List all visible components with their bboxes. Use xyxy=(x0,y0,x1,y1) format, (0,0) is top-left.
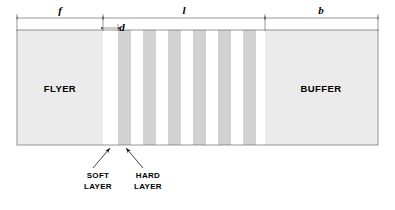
hard-layer-stripe xyxy=(168,30,181,145)
hard-layer-stripe xyxy=(218,30,231,145)
cross-section-diagram: FLYER BUFFER f d l b SOFT LAYER xyxy=(0,0,395,210)
hard-layer-stripe xyxy=(193,30,206,145)
callout-hard-layer: HARD LAYER xyxy=(126,148,162,191)
buffer-label: BUFFER xyxy=(301,83,342,94)
hard-layer-label-line-1: HARD xyxy=(136,171,160,180)
hard-layer-stripe xyxy=(143,30,156,145)
flyer-label: FLYER xyxy=(44,83,76,94)
hard-layer-leader-line xyxy=(126,148,143,168)
hard-layer-stripe xyxy=(118,30,131,145)
extension-lines xyxy=(17,14,378,31)
soft-layer-label-line-1: SOFT xyxy=(87,171,110,180)
hard-layer-label-line-2: LAYER xyxy=(134,182,162,191)
hard-layer-stripe xyxy=(243,30,256,145)
figure-root: FLYER BUFFER f d l b SOFT LAYER xyxy=(0,0,395,210)
soft-layer-leader-line xyxy=(93,148,110,168)
dimension-label-d: d xyxy=(119,21,125,33)
callout-soft-layer: SOFT LAYER xyxy=(84,148,112,191)
soft-layer-label-line-2: LAYER xyxy=(84,182,112,191)
dimension-lines xyxy=(17,18,378,28)
dimension-label-b: b xyxy=(318,4,324,16)
dimension-label-f: f xyxy=(58,4,63,16)
dimension-label-l: l xyxy=(182,4,186,16)
